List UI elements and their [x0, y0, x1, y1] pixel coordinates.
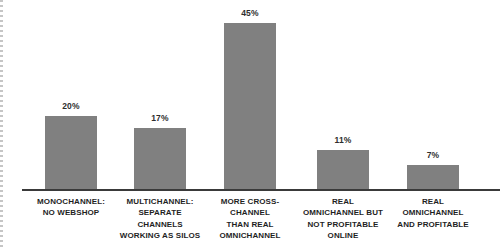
- bar-value-label-3: 45%: [208, 8, 292, 18]
- category-label-line: AND PROFITABLE: [375, 219, 491, 230]
- bar-rect-1[interactable]: [45, 116, 97, 191]
- bar-group-5: 7%: [407, 0, 459, 191]
- category-axis: MONOCHANNEL:NO WEBSHOP MULTICHANNEL:SEPA…: [0, 196, 504, 250]
- bar-chart-figure: 20% 17% 45% 11% 7% MONOCHANNEL:NO WEBSHO…: [0, 0, 504, 250]
- bar-rect-4[interactable]: [317, 150, 369, 191]
- bar-rect-3[interactable]: [224, 23, 276, 191]
- x-axis-baseline: [22, 189, 500, 191]
- category-label-line: OMNICHANNEL: [375, 207, 491, 218]
- category-label-5: REALOMNICHANNELAND PROFITABLE: [375, 196, 491, 230]
- bar-group-4: 11%: [317, 0, 369, 191]
- bar-value-label-1: 20%: [29, 101, 113, 111]
- bar-group-2: 17%: [134, 0, 186, 191]
- bar-value-label-5: 7%: [391, 150, 475, 160]
- bar-rect-5[interactable]: [407, 165, 459, 191]
- bar-group-3: 45%: [224, 0, 276, 191]
- bar-group-1: 20%: [45, 0, 97, 191]
- bar-value-label-4: 11%: [301, 135, 385, 145]
- bar-value-label-2: 17%: [118, 113, 202, 123]
- category-label-line: REAL: [375, 196, 491, 207]
- bar-rect-2[interactable]: [134, 128, 186, 191]
- plot-area: 20% 17% 45% 11% 7%: [0, 0, 504, 191]
- category-label-line: ONLINE: [285, 230, 401, 241]
